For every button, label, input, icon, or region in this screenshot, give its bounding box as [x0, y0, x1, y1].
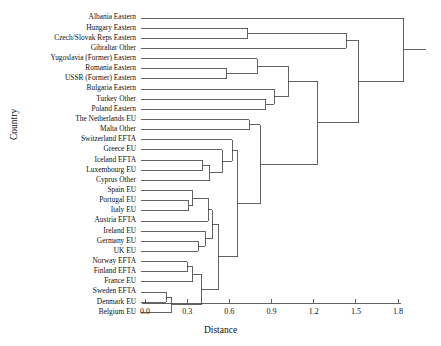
x-axis-tick-label: 0.6: [224, 307, 234, 316]
x-axis-label: Distance: [0, 325, 441, 335]
x-axis-tick-label: 0.9: [267, 307, 277, 316]
x-axis-tick-label: 0.0: [140, 307, 150, 316]
x-axis-tick-label: 1.5: [351, 307, 361, 316]
x-axis-tick-label: 1.2: [309, 307, 319, 316]
y-axis-label: Country: [9, 109, 19, 140]
x-axis-tick-label: 1.8: [393, 307, 403, 316]
dendrogram-plot: [0, 0, 441, 346]
x-axis-tick-label: 0.3: [182, 307, 192, 316]
dendrogram-figure: Albania EasternHungary EasternCzech/Slov…: [0, 0, 441, 346]
